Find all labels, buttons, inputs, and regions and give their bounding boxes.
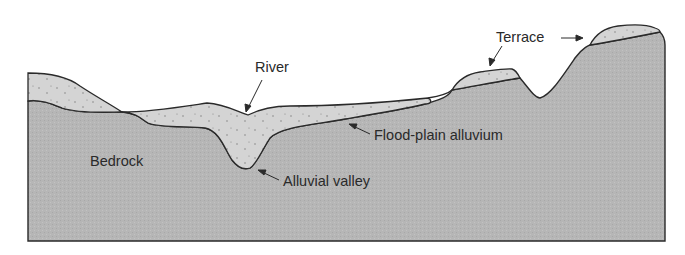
geologic-cross-section: River Terrace Bedrock Flood-plain alluvi… xyxy=(0,0,685,255)
upper-terrace-arrow xyxy=(561,35,583,41)
river-arrow xyxy=(245,80,262,112)
bedrock-label: Bedrock xyxy=(90,153,144,169)
terrace-label: Terrace xyxy=(496,29,544,45)
river-label: River xyxy=(255,59,289,75)
lower-terrace-arrow xyxy=(489,46,502,66)
alluvial-valley-label: Alluvial valley xyxy=(283,173,371,189)
flood-plain-alluvium-label: Flood-plain alluvium xyxy=(374,127,503,143)
bedrock-layer xyxy=(28,32,665,241)
